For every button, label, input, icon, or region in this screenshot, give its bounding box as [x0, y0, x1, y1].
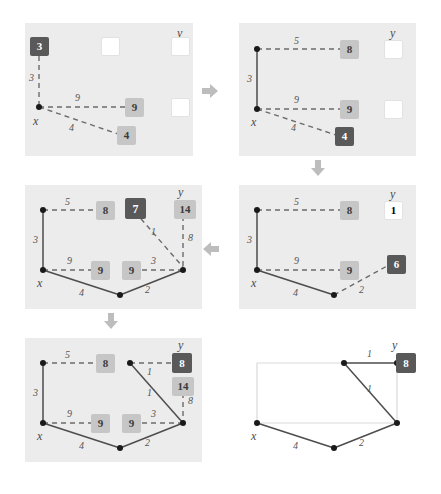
edge-weight-3b: 3 — [151, 256, 156, 266]
edge-weight-3b: 3 — [151, 409, 156, 419]
edge-weight-2: 2 — [359, 438, 364, 448]
edge-x-lower — [257, 109, 339, 136]
edge-weight-4: 4 — [79, 288, 84, 298]
vertex-label-x: x — [251, 116, 256, 128]
dist-badge-right — [171, 98, 190, 117]
panel-step-2: x y 5 3 9 4 8 9 4 — [239, 23, 416, 156]
edge-weight-8: 8 — [188, 396, 193, 406]
dist-badge-top-mid: 8 — [96, 201, 115, 220]
edge-weight-3: 3 — [33, 235, 38, 245]
node-right — [180, 420, 186, 426]
edge-weight-1-diag: 1 — [147, 388, 152, 398]
node-x — [40, 267, 46, 273]
dist-badge-lower: 4 — [117, 126, 136, 145]
edge-weight-4: 4 — [293, 441, 298, 451]
dist-badge-mid-left: 9 — [91, 414, 110, 433]
dist-badge-top-mid: 8 — [340, 201, 359, 220]
dist-badge-lower: 4 — [335, 127, 354, 146]
vertex-label-x: x — [251, 430, 256, 442]
dist-badge-y-final: 8 — [172, 353, 192, 373]
node-x — [254, 106, 260, 112]
dist-badge-mid-right: 9 — [340, 261, 359, 280]
node-right — [180, 267, 186, 273]
edge-weight-4: 4 — [79, 441, 84, 451]
edge-weight-2: 2 — [145, 285, 150, 295]
node-top — [254, 207, 260, 213]
dist-badge-y-final: 8 — [396, 353, 416, 373]
edge-weight-9: 9 — [294, 95, 299, 105]
dist-badge-top-mid: 8 — [96, 354, 115, 373]
node-bottom — [117, 292, 123, 298]
edge-weight-5: 5 — [65, 350, 70, 360]
edge-weight-5: 5 — [294, 197, 299, 207]
arrow-panel2-to-panel4 — [311, 160, 325, 176]
edge-weight-2: 2 — [359, 285, 364, 295]
arrow-panel1-to-panel2 — [202, 84, 218, 98]
vertex-label-y: y — [392, 339, 397, 351]
panel-step-3: x y 5 3 9 4 2 8 1 9 6 — [239, 185, 416, 309]
edge-bottom-right-solid — [334, 423, 397, 448]
arrow-panel4-to-panel5 — [104, 313, 118, 329]
node-top — [40, 207, 46, 213]
edge-weight-4: 4 — [69, 123, 74, 133]
dist-badge-y: 14 — [174, 200, 196, 219]
vertex-label-y: y — [178, 339, 183, 351]
panel-step-6-result: x y 1 1 4 2 8 — [239, 338, 416, 462]
node-top-mid — [341, 360, 347, 366]
vertex-label-x: x — [33, 115, 38, 127]
edge-weight-3: 3 — [247, 235, 252, 245]
edge-weight-4: 4 — [293, 288, 298, 298]
dist-badge-mid-right: 9 — [340, 100, 359, 119]
edge-weight-9: 9 — [75, 93, 80, 103]
panel-step-1: x y 3 9 4 3 9 4 — [25, 23, 193, 156]
vertex-label-y: y — [390, 27, 395, 39]
node-bottom — [117, 445, 123, 451]
dist-badge-mid-right: 9 — [122, 261, 141, 280]
edge-weight-4: 4 — [291, 123, 296, 133]
dist-badge-top-left: 3 — [30, 37, 49, 56]
dist-badge-top-mid — [101, 37, 120, 56]
figure-canvas: x y 3 9 4 3 9 4 x y 5 3 9 4 8 — [0, 0, 441, 494]
dist-badge-right — [384, 100, 403, 119]
node-bottom — [331, 445, 337, 451]
edge-weight-8: 8 — [188, 233, 193, 243]
vertex-label-y: y — [178, 186, 183, 198]
vertex-label-y: y — [390, 188, 395, 200]
vertex-label-x: x — [37, 430, 42, 442]
edge-weight-9: 9 — [67, 409, 72, 419]
dist-badge-right-new: 6 — [387, 255, 406, 274]
edge-weight-3: 3 — [29, 73, 34, 83]
node-x — [40, 420, 46, 426]
edge-weight-1-diag: 1 — [367, 384, 372, 394]
panel-step-4: x y 5 3 9 3 4 2 1 8 8 7 14 9 9 — [25, 185, 202, 309]
panel-step-5: x y 5 3 1 1 9 3 8 4 2 8 8 14 9 9 — [25, 338, 202, 462]
node-right — [394, 420, 400, 426]
dist-badge-top-right — [171, 37, 190, 56]
dist-badge-mid-left: 9 — [91, 261, 110, 280]
arrow-panel3-to-panel4 — [203, 242, 219, 256]
edge-weight-1: 1 — [151, 227, 156, 237]
dist-badge-top-selected: 7 — [125, 198, 146, 219]
node-top-left — [40, 360, 46, 366]
node-x — [254, 420, 260, 426]
edge-weight-2: 2 — [145, 438, 150, 448]
vertex-label-x: x — [251, 277, 256, 289]
edge-weight-3: 3 — [33, 388, 38, 398]
dist-badge-top-right — [384, 40, 403, 59]
edge-weight-9: 9 — [294, 256, 299, 266]
edge-weight-5: 5 — [65, 197, 70, 207]
edge-top-diag — [135, 212, 183, 267]
dist-badge-top-mid: 8 — [340, 40, 359, 59]
node-top-mid — [127, 360, 133, 366]
edge-weight-1-top: 1 — [367, 349, 372, 359]
dist-badge-y-old: 14 — [172, 377, 194, 396]
dist-badge-mid-right: 9 — [122, 414, 141, 433]
edge-weight-9: 9 — [67, 256, 72, 266]
edge-x-to-lower — [39, 107, 121, 135]
dist-badge-mid-right: 9 — [125, 98, 144, 117]
node-x — [254, 267, 260, 273]
edge-weight-3: 3 — [247, 74, 252, 84]
dist-badge-top-right: 1 — [384, 201, 403, 220]
panel-6-graph — [239, 338, 416, 462]
node-bottom — [331, 292, 337, 298]
